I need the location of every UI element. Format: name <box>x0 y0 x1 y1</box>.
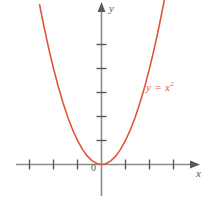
curve-equation-label: y = x2 <box>146 81 174 93</box>
origin-label: 0 <box>91 163 96 173</box>
y-axis-arrow-icon <box>98 2 106 12</box>
x-axis-label: x <box>196 168 201 179</box>
curve-equation-exponent: 2 <box>170 80 174 88</box>
plot-canvas <box>0 0 215 203</box>
parabola-figure: y x 0 y = x2 <box>0 0 215 203</box>
y-axis-label: y <box>109 3 114 14</box>
curve-equation-base: y = x <box>146 81 170 93</box>
